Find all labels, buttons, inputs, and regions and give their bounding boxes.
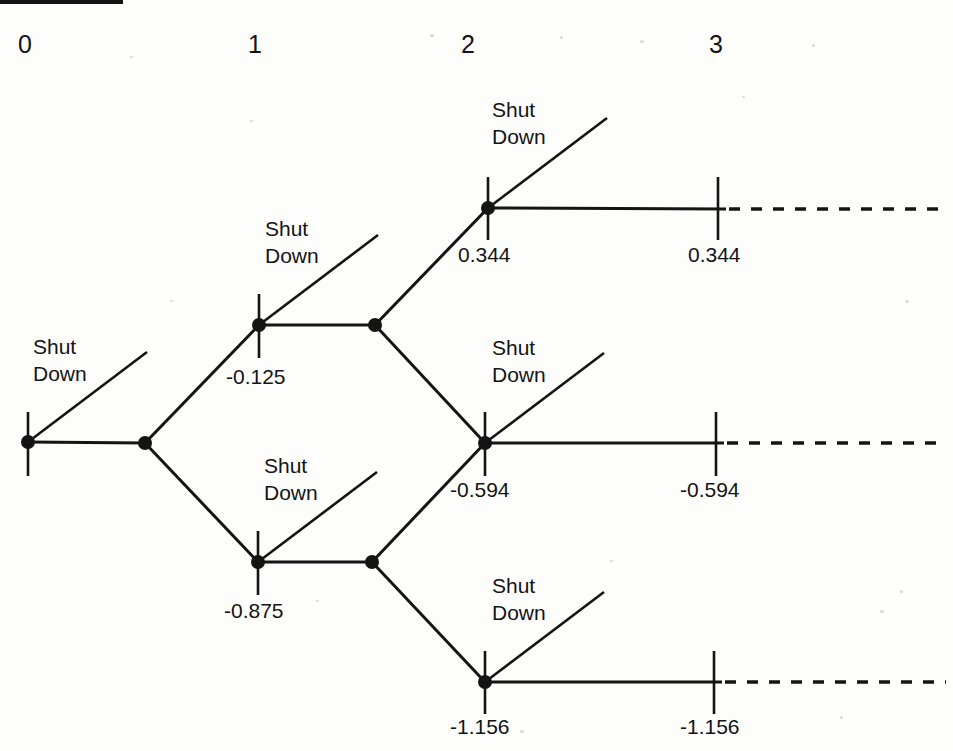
edge-root-to-branch0 [28,442,145,443]
node-ticks [28,177,718,714]
edge-branch1up-down [375,325,485,443]
shutdown-label-line: Down [33,360,87,387]
edge-period2up-to-period3 [488,208,726,209]
shutdown-period1-up-label: ShutDown [265,215,319,269]
value-period3-down: -1.156 [680,716,740,737]
value-period1-down: -0.875 [224,600,284,621]
scan-speck [905,300,909,303]
edge-branch1down-down [372,562,485,682]
scan-speck [880,610,884,613]
shutdown-label-line: Shut [492,334,546,361]
tree-edges-solid [28,208,726,682]
shutdown-label-line: Shut [265,215,319,242]
tree-graphics [0,0,953,751]
scan-speck [560,36,563,39]
period-label-1: 1 [248,32,262,57]
scan-speck [250,120,253,122]
scan-speck [900,590,903,593]
value-period2-up: 0.344 [458,244,511,265]
value-period3-mid: -0.594 [680,479,740,500]
shutdown-label-line: Down [492,361,546,388]
node-period1-down-dot [251,555,265,569]
node-branch-1-up-dot [368,318,382,332]
shutdown-label-line: Shut [33,333,87,360]
scan-speck [316,600,319,602]
value-period2-mid: -0.594 [450,479,510,500]
shutdown-period2-mid-label: ShutDown [492,334,546,388]
shutdown-label-line: Down [264,479,318,506]
value-period3-up: 0.344 [688,244,741,265]
scan-speck [840,716,843,719]
node-period2-up-dot [481,201,495,215]
scan-speck [170,300,173,302]
node-branch-0-dot [138,436,152,450]
node-period2-mid-dot [478,436,492,450]
scan-speck [130,56,133,58]
shutdown-period1-down-label: ShutDown [264,452,318,506]
shutdown-period2-down-label: ShutDown [492,572,546,626]
scan-speck [640,40,644,43]
edge-branch1up-up [375,208,488,325]
value-period1-up: -0.125 [226,366,286,387]
period-label-0: 0 [18,32,32,57]
value-period2-down: -1.156 [450,716,510,737]
decision-tree-figure: 0123 ShutDownShutDownShutDownShutDownShu… [0,0,953,751]
tree-edges-dashed [725,209,946,682]
shutdown-label-line: Down [492,599,546,626]
scan-speck [520,730,524,733]
period-label-2: 2 [461,32,475,57]
scan-speck [742,96,745,98]
scan-speck [812,44,815,47]
shutdown-label-line: Shut [492,572,546,599]
shutdown-label-line: Shut [492,96,546,123]
edge-branch0-down [145,443,258,562]
shutdown-label-line: Down [492,123,546,150]
scan-speck [610,560,613,562]
edge-branch1down-up [372,443,485,562]
scan-speck [430,34,434,37]
shutdown-period2-up-label: ShutDown [492,96,546,150]
node-root-dot [21,435,35,449]
node-period1-up-dot [252,318,266,332]
shutdown-label-line: Shut [264,452,318,479]
node-period2-down-dot [478,675,492,689]
node-branch-1-down-dot [365,555,379,569]
shutdown-root-label: ShutDown [33,333,87,387]
shutdown-label-line: Down [265,242,319,269]
period-label-3: 3 [709,32,723,57]
